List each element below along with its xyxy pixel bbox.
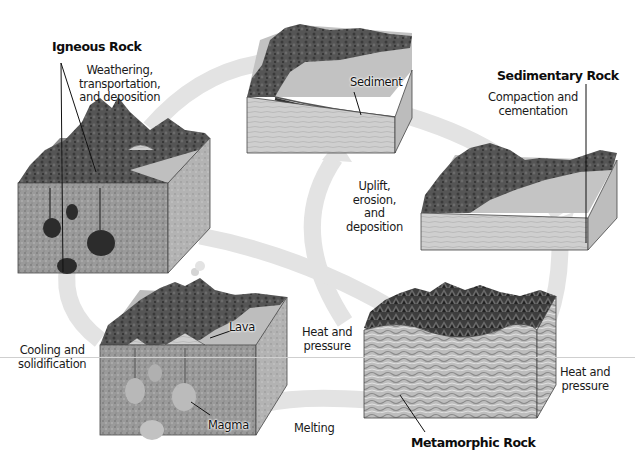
magma-label: Magma	[208, 419, 249, 433]
heat-pressure-right-label: Heat and pressure	[560, 366, 610, 393]
melting-process-label: Melting	[294, 422, 334, 436]
rock-cycle-diagram: Igneous Rock Weathering, transportation,…	[0, 0, 635, 466]
sediment-label: Sediment	[350, 76, 403, 90]
compaction-process-label: Compaction and cementation	[488, 91, 578, 118]
cooling-process-label: Cooling and solidification	[18, 344, 86, 371]
metamorphic-rock-label: Metamorphic Rock	[411, 436, 536, 450]
scan-line-divider	[0, 357, 635, 358]
uplift-process-label: Uplift, erosion, and deposition	[346, 180, 403, 234]
igneous-rock-label: Igneous Rock	[52, 40, 141, 54]
heat-pressure-left-label: Heat and pressure	[302, 326, 352, 353]
lava-label: Lava	[229, 321, 255, 335]
volcano-block	[100, 261, 287, 440]
sedimentary-rock-label: Sedimentary Rock	[497, 69, 619, 83]
weathering-process-label: Weathering, transportation, and depositi…	[79, 64, 160, 105]
